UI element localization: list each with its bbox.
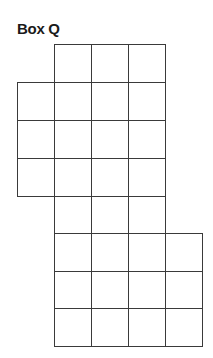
- grid-cell: [55, 234, 92, 272]
- box-grid: [0, 0, 213, 358]
- grid-cell: [55, 121, 92, 159]
- grid-cell: [129, 309, 166, 347]
- grid-cell: [18, 159, 55, 197]
- grid-cell: [129, 121, 166, 159]
- grid-cell: [55, 83, 92, 121]
- grid-cell: [129, 197, 166, 234]
- grid-cell: [18, 83, 55, 121]
- grid-cell: [55, 272, 92, 309]
- grid-cell: [92, 234, 129, 272]
- grid-cell: [129, 272, 166, 309]
- grid-cell: [92, 309, 129, 347]
- grid-cell: [92, 121, 129, 159]
- grid-cell: [166, 234, 203, 272]
- grid-cell: [92, 83, 129, 121]
- grid-cell: [55, 159, 92, 197]
- grid-cell: [166, 309, 203, 347]
- grid-cell: [55, 309, 92, 347]
- grid-cell: [129, 234, 166, 272]
- grid-cell: [92, 159, 129, 197]
- grid-cell: [18, 121, 55, 159]
- grid-cell: [129, 83, 166, 121]
- grid-cell: [166, 272, 203, 309]
- grid-cell: [55, 45, 92, 83]
- grid-cell: [92, 272, 129, 309]
- grid-cell: [92, 197, 129, 234]
- grid-cell: [55, 197, 92, 234]
- grid-cell: [129, 45, 166, 83]
- grid-cell: [92, 45, 129, 83]
- grid-cell: [129, 159, 166, 197]
